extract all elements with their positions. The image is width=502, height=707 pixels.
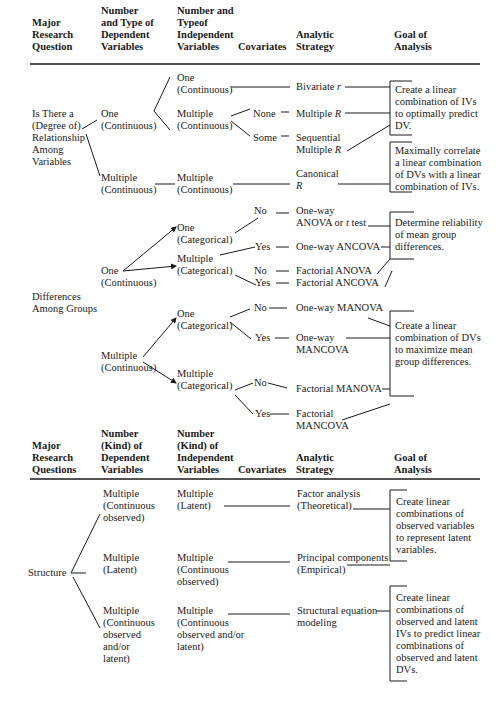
header-independent-variables: Number and Typeof Independent Variables: [177, 5, 234, 53]
strategy-oneway-mancova: One-way MANCOVA: [296, 332, 349, 356]
goal-predict-dv: Create a linear combination of IVs to op…: [395, 84, 478, 132]
iv-one-continuous: One (Continuous): [177, 72, 232, 96]
iv-multiple-categorical-b: Multiple (Categorical): [177, 368, 232, 392]
iv-one-categorical-a: One (Categorical): [177, 222, 232, 246]
question-relationship: Is There a (Degree of) Relationship Amon…: [32, 108, 85, 168]
covariate-none: None: [253, 108, 276, 120]
header-covariates: Covariates: [238, 41, 286, 53]
iv-multiple-continuous-observed-latent: Multiple (Continuous observed and/or lat…: [177, 605, 244, 653]
header2-major-research-questions: Major Research Questions: [32, 440, 76, 476]
dv-multiple-continuous: Multiple (Continuous): [101, 172, 156, 196]
dv-one-continuous-diff: One (Continuous): [101, 265, 156, 289]
iv-multiple-continuous-2: Multiple (Continuous): [177, 172, 232, 196]
strategy-bivariate-r: Bivariate r: [296, 81, 341, 93]
header2-dependent-variables: Number (Kind) of Dependent Variables: [101, 428, 149, 476]
strategy-structural-equation-modeling: Structural equation modeling: [297, 605, 377, 629]
covariate-some: Some: [253, 132, 277, 144]
strategy-oneway-manova: One-way MANOVA: [296, 302, 383, 314]
dv-one-continuous: One (Continuous): [101, 108, 156, 132]
strategy-factorial-mancova: Factorial MANCOVA: [296, 408, 349, 432]
covariate-no-4: No: [254, 377, 267, 389]
goal-maximize-group-differences: Create a linear combination of DVs to ma…: [395, 320, 481, 368]
strategy-factorial-manova: Factorial MANOVA: [296, 383, 382, 395]
strategy-sequential-multiple-r: Sequential Multiple R: [296, 132, 341, 156]
iv-multiple-latent: Multiple (Latent): [177, 488, 213, 512]
header2-independent-variables: Number (Kind) of Independent Variables: [177, 428, 234, 476]
goal-maximally-correlate: Maximally correlate a linear combination…: [395, 145, 481, 193]
header2-analytic-strategy: Analytic Strategy: [296, 452, 334, 476]
question-structure: Structure: [28, 567, 67, 579]
header2-covariates: Covariates: [238, 464, 286, 476]
iv-multiple-categorical-a: Multiple (Categorical): [177, 253, 232, 277]
dv-multiple-latent: Multiple (Latent): [103, 552, 139, 576]
iv-multiple-continuous: Multiple (Continuous): [177, 108, 232, 132]
strategy-canonical-r: CanonicalR: [296, 168, 339, 192]
header-dependent-variables: Number and Type of Dependent Variables: [101, 5, 154, 53]
header-analytic-strategy: Analytic Strategy: [296, 29, 334, 53]
header2-goal-of-analysis: Goal of Analysis: [394, 452, 432, 476]
strategy-principal-components: Principal components (Empirical): [297, 552, 388, 576]
covariate-yes-3: Yes: [255, 332, 270, 344]
dv-multiple-continuous-observed: Multiple (Continuous observed): [103, 488, 155, 524]
strategy-oneway-ancova: One-way ANCOVA: [296, 241, 380, 253]
header-goal-of-analysis: Goal of Analysis: [394, 29, 432, 53]
covariate-yes-1: Yes: [255, 241, 270, 253]
iv-one-categorical-b: One (Categorical): [177, 308, 232, 332]
covariate-yes-2: Yes: [255, 277, 270, 289]
strategy-multiple-r: Multiple R: [296, 108, 341, 120]
covariate-no-1: No: [254, 205, 267, 217]
dv-multiple-continuous-diff: Multiple (Continuous): [101, 350, 156, 374]
strategy-factor-analysis: Factor analysis (Theoretical): [297, 488, 360, 512]
strategy-factorial-anova: Factorial ANOVA: [296, 265, 372, 277]
covariate-no-3: No: [254, 302, 267, 314]
covariate-no-2: No: [254, 265, 267, 277]
goal-represent-latent-variables: Create linear combinations of observed v…: [396, 496, 474, 556]
strategy-oneway-anova-t-test: One-way ANOVA or t test: [296, 205, 366, 229]
header-major-research-question: Major Research Question: [32, 17, 73, 53]
covariate-yes-4: Yes: [255, 408, 270, 420]
strategy-factorial-ancova: Factorial ANCOVA: [296, 277, 379, 289]
question-differences-among-groups: Differences Among Groups: [32, 291, 97, 315]
iv-multiple-continuous-observed: Multiple (Continuous observed): [177, 552, 229, 588]
goal-determine-reliability: Determine reliability of mean group diff…: [395, 217, 483, 253]
goal-predict-linear-combinations: Create linear combinations of observed a…: [396, 592, 480, 676]
dv-multiple-continuous-observed-latent: Multiple (Continuous observed and/or lat…: [103, 605, 155, 665]
